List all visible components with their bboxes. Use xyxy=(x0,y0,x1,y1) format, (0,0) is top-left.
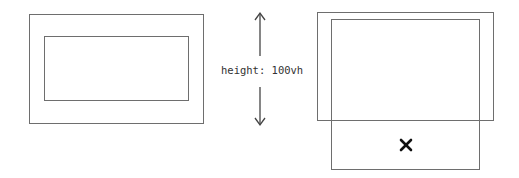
cross-icon xyxy=(0,0,519,178)
